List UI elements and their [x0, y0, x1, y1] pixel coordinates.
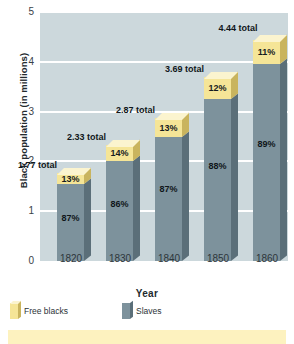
bar-label-free-blacks-1850: 12%	[204, 83, 231, 93]
y-axis-tick-label: 4	[12, 56, 34, 67]
y-axis-tick-label: 5	[12, 6, 34, 17]
bar-label-slaves-1840: 87%	[155, 184, 182, 194]
bar-label-slaves-1820: 87%	[57, 213, 84, 223]
bar-segment-slaves	[253, 64, 280, 261]
x-axis-tick-label-1840: 1840	[146, 253, 192, 264]
legend-label-slaves: Slaves	[136, 306, 162, 316]
bar-total-label-1820: 1.77 total	[0, 160, 57, 170]
legend-label-free-blacks: Free blacks	[24, 306, 68, 316]
bar-1860	[253, 40, 280, 261]
gridline	[40, 11, 288, 13]
bar-label-free-blacks-1820: 13%	[57, 174, 84, 184]
bar-label-free-blacks-1860: 11%	[253, 47, 280, 57]
y-axis-tick-label: 0	[12, 255, 34, 266]
bar-label-slaves-1860: 89%	[253, 139, 280, 149]
plot-area: 012345 87%13%1.77 total86%14%2.33 total8…	[40, 12, 288, 261]
bar-segment-slaves	[155, 137, 182, 261]
bar-total-label-1850: 3.69 total	[146, 64, 204, 74]
bar-segment-slaves	[204, 99, 231, 261]
y-axis-tick-label: 3	[12, 106, 34, 117]
x-axis-tick-label-1860: 1860	[244, 253, 290, 264]
bar-total-label-1840: 2.87 total	[97, 105, 155, 115]
chart-figure: Black population (in millions) 012345 87…	[0, 0, 294, 344]
bottom-color-band	[8, 330, 286, 344]
bar-label-free-blacks-1830: 14%	[106, 148, 133, 158]
x-axis-tick-label-1820: 1820	[48, 253, 94, 264]
bar-total-label-1830: 2.33 total	[48, 132, 106, 142]
x-axis-title: Year	[0, 288, 294, 299]
bar-label-slaves-1850: 88%	[204, 161, 231, 171]
x-axis-tick-label-1850: 1850	[195, 253, 241, 264]
bar-label-free-blacks-1840: 13%	[155, 123, 182, 133]
bar-label-slaves-1830: 86%	[106, 199, 133, 209]
x-axis-tick-label-1830: 1830	[97, 253, 143, 264]
bar-segment-slaves	[106, 161, 133, 261]
y-axis-tick-label: 1	[12, 205, 34, 216]
gridline	[40, 61, 288, 63]
bar-total-label-1860: 4.44 total	[209, 23, 267, 33]
legend-swatch-free-blacks	[10, 303, 18, 319]
legend-item-free-blacks: Free blacks	[10, 303, 68, 319]
legend-item-slaves: Slaves	[122, 303, 162, 319]
legend-swatch-slaves	[122, 303, 130, 319]
